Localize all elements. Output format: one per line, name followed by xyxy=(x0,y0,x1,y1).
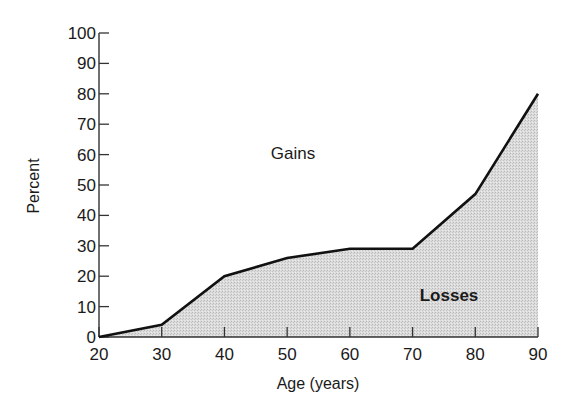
chart: 0102030405060708090100 2030405060708090 … xyxy=(0,0,571,417)
x-tick-label: 50 xyxy=(278,345,297,364)
y-tick-label: 40 xyxy=(77,206,96,225)
x-tick-label: 40 xyxy=(215,345,234,364)
y-tick-label: 100 xyxy=(68,24,96,43)
gains-label: Gains xyxy=(271,144,315,163)
x-tick-label: 90 xyxy=(529,345,548,364)
y-tick-label: 60 xyxy=(77,146,96,165)
y-tick-label: 80 xyxy=(77,85,96,104)
x-tick-label: 70 xyxy=(403,345,422,364)
losses-label: Losses xyxy=(420,286,479,305)
y-tick-label: 10 xyxy=(77,298,96,317)
y-tick-label: 90 xyxy=(77,54,96,73)
x-tick-label: 60 xyxy=(340,345,359,364)
y-tick-label: 70 xyxy=(77,115,96,134)
y-axis-title: Percent xyxy=(25,158,42,214)
y-tick-label: 20 xyxy=(77,267,96,286)
y-axis xyxy=(99,33,109,337)
x-tick-label: 80 xyxy=(466,345,485,364)
y-tick-label: 30 xyxy=(77,237,96,256)
x-tick-label: 20 xyxy=(90,345,109,364)
y-tick-labels: 0102030405060708090100 xyxy=(68,24,96,347)
x-axis-title: Age (years) xyxy=(277,375,360,392)
x-tick-label: 30 xyxy=(152,345,171,364)
y-tick-label: 50 xyxy=(77,176,96,195)
x-tick-labels: 2030405060708090 xyxy=(90,345,548,364)
